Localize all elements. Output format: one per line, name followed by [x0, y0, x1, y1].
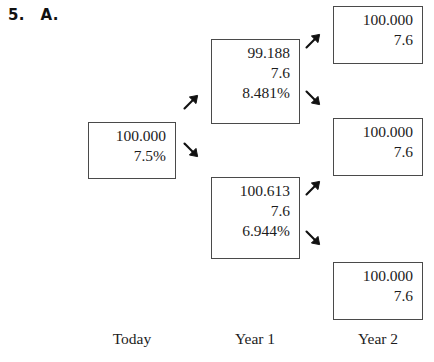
year2-middle-node-coupon: 7.6 — [338, 142, 413, 162]
today-node: 100.000 7.5% — [88, 122, 176, 179]
year1-up-node: 99.188 7.6 8.481% — [211, 39, 300, 124]
arrow-year1down-to-year2-lower-icon — [303, 228, 323, 248]
year1-up-node-rate: 8.481% — [216, 83, 290, 103]
year1-down-node-rate: 6.944% — [216, 221, 290, 241]
question-part-label: A. — [41, 6, 59, 24]
year1-down-node-value: 100.613 — [216, 181, 290, 201]
year2-lower-node-coupon: 7.6 — [338, 286, 413, 306]
question-number: 5. — [8, 6, 25, 24]
year2-upper-node-value: 100.000 — [338, 10, 413, 30]
year2-middle-node-value: 100.000 — [338, 122, 413, 142]
arrow-year1up-to-year2-upper-icon — [303, 31, 323, 51]
today-node-value: 100.000 — [93, 126, 166, 146]
year1-up-node-value: 99.188 — [216, 43, 290, 63]
year2-upper-node-coupon: 7.6 — [338, 30, 413, 50]
arrow-year1down-to-year2-middle-icon — [303, 178, 323, 198]
binomial-tree-diagram: 5.A. 100.000 7.5% 99.188 7.6 8.481% 100.… — [0, 0, 434, 362]
year1-down-node-coupon: 7.6 — [216, 201, 290, 221]
year2-lower-node-value: 100.000 — [338, 266, 413, 286]
year2-upper-node: 100.000 7.6 — [333, 6, 423, 64]
arrow-year1up-to-year2-middle-icon — [303, 88, 323, 108]
column-label-year2: Year 2 — [333, 330, 423, 348]
arrow-today-to-year1-up-icon — [181, 92, 201, 112]
year1-up-node-coupon: 7.6 — [216, 63, 290, 83]
year2-middle-node: 100.000 7.6 — [333, 118, 423, 176]
arrow-today-to-year1-down-icon — [181, 140, 201, 160]
question-header: 5.A. — [8, 6, 59, 24]
year1-down-node: 100.613 7.6 6.944% — [211, 177, 300, 259]
column-label-today: Today — [92, 330, 172, 348]
today-node-rate: 7.5% — [93, 146, 166, 166]
year2-lower-node: 100.000 7.6 — [333, 262, 423, 320]
column-label-year1: Year 1 — [213, 330, 297, 348]
